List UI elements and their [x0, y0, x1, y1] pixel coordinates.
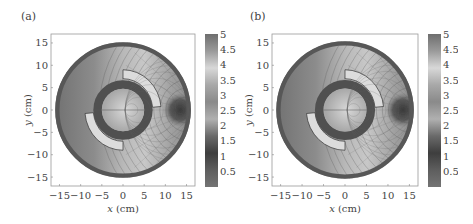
svg-text:0: 0 [120, 190, 126, 201]
svg-text:−5: −5 [94, 190, 109, 201]
svg-text:−5: −5 [33, 127, 48, 138]
svg-text:15: 15 [180, 190, 193, 201]
heatmap-plot: −15−10−5051015151050−5−10−15x (cm)y (cm)… [0, 0, 236, 224]
svg-text:5: 5 [363, 190, 369, 201]
svg-text:10: 10 [382, 190, 395, 201]
svg-text:−10: −10 [248, 149, 269, 160]
svg-text:2: 2 [443, 120, 449, 131]
svg-text:4: 4 [443, 59, 449, 70]
svg-text:−10: −10 [27, 149, 48, 160]
svg-text:−15: −15 [248, 172, 269, 183]
svg-text:5: 5 [141, 190, 147, 201]
svg-text:10: 10 [256, 60, 269, 71]
svg-text:5: 5 [42, 82, 48, 93]
svg-text:−5: −5 [254, 127, 269, 138]
svg-text:0: 0 [42, 105, 48, 116]
svg-text:3.5: 3.5 [443, 75, 458, 86]
svg-text:y (cm): y (cm) [243, 94, 254, 127]
svg-text:0: 0 [263, 105, 269, 116]
svg-text:15: 15 [256, 37, 269, 48]
svg-text:5: 5 [443, 29, 449, 40]
svg-text:1: 1 [443, 151, 449, 162]
svg-text:15: 15 [35, 37, 48, 48]
svg-text:10: 10 [35, 60, 48, 71]
svg-text:1.5: 1.5 [443, 135, 458, 146]
svg-text:−10: −10 [292, 190, 313, 201]
svg-text:−15: −15 [27, 172, 48, 183]
svg-text:y (cm): y (cm) [22, 94, 33, 127]
svg-text:−10: −10 [70, 190, 91, 201]
svg-text:x (cm): x (cm) [107, 203, 139, 214]
svg-text:10: 10 [159, 190, 172, 201]
svg-text:3: 3 [443, 90, 449, 101]
svg-text:0.5: 0.5 [443, 166, 458, 177]
svg-text:2.5: 2.5 [443, 105, 458, 116]
svg-text:−15: −15 [270, 190, 291, 201]
svg-text:x (cm): x (cm) [329, 203, 361, 214]
svg-text:4.5: 4.5 [443, 44, 458, 55]
svg-text:−15: −15 [49, 190, 70, 201]
heatmap-plot: −15−10−5051015151050−5−10−15x (cm)y (cm)… [222, 0, 458, 224]
panel-a: (a) −15−10−5051015151050−5−10−15x (cm)y … [0, 0, 236, 224]
panel-b: (b) −15−10−5051015151050−5−10−15x (cm)y … [222, 0, 458, 224]
svg-text:5: 5 [263, 82, 269, 93]
svg-text:15: 15 [403, 190, 416, 201]
svg-text:0: 0 [342, 190, 348, 201]
svg-text:−5: −5 [316, 190, 331, 201]
